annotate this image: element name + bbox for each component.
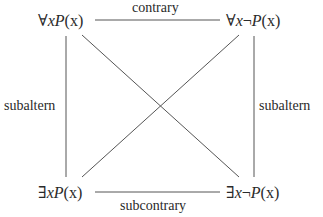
negation: ¬ xyxy=(243,12,252,29)
node-universal-affirmative: ∀xP(x) xyxy=(38,13,83,29)
variable: x xyxy=(236,12,243,29)
predicate: P xyxy=(251,184,261,201)
arguments: (x) xyxy=(64,184,83,201)
node-universal-negative: ∀x¬P(x) xyxy=(226,13,280,29)
arguments: (x) xyxy=(262,12,281,29)
label-subcontrary: subcontrary xyxy=(120,199,186,213)
variable: x xyxy=(48,12,55,29)
exists-symbol: ∃ xyxy=(38,184,47,201)
arguments: (x) xyxy=(65,12,84,29)
node-particular-affirmative: ∃xP(x) xyxy=(38,185,82,201)
variable: x xyxy=(235,184,242,201)
predicate: P xyxy=(55,12,65,29)
label-subaltern-left: subaltern xyxy=(4,99,55,113)
node-particular-negative: ∃x¬P(x) xyxy=(226,185,279,201)
forall-symbol: ∀ xyxy=(38,12,48,29)
arguments: (x) xyxy=(261,184,280,201)
predicate: P xyxy=(54,184,64,201)
variable: x xyxy=(47,184,54,201)
exists-symbol: ∃ xyxy=(226,184,235,201)
negation: ¬ xyxy=(242,184,251,201)
forall-symbol: ∀ xyxy=(226,12,236,29)
predicate: P xyxy=(252,12,262,29)
label-contrary: contrary xyxy=(132,1,179,15)
square-of-opposition: ∀xP(x) ∀x¬P(x) ∃xP(x) ∃x¬P(x) contrary s… xyxy=(0,0,323,217)
label-subaltern-right: subaltern xyxy=(259,99,310,113)
